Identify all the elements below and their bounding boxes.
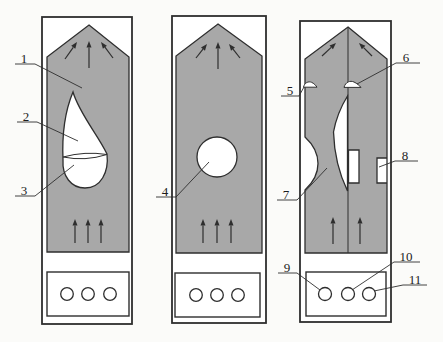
panel-right: [300, 21, 391, 322]
ref-label-6-text: 6: [403, 50, 410, 65]
ref-label-7-text: 7: [283, 187, 290, 202]
ref-label-9-text: 9: [284, 260, 291, 275]
panel-middle-hole-1: [190, 289, 203, 302]
ref-label-4-text: 4: [162, 184, 169, 199]
panel-left-hole-1: [61, 288, 74, 301]
ref-label-3-text: 3: [21, 183, 28, 198]
ref-label-10-text: 10: [400, 249, 413, 264]
panel-middle-hole-2: [211, 289, 224, 302]
ref-label-1-text: 1: [21, 51, 28, 66]
panel-right-hole-3: [363, 288, 376, 301]
ref-label-8-text: 8: [402, 148, 409, 163]
panel-right-hole-1: [319, 288, 332, 301]
panel-left-hole-2: [82, 288, 95, 301]
ref-label-2-text: 2: [23, 109, 30, 124]
panel-middle-hole-3: [232, 289, 245, 302]
panel-middle: [172, 16, 266, 323]
panel-left: [42, 17, 132, 324]
patent-figure: 1234567891011: [0, 0, 443, 342]
ref-label-5-text: 5: [287, 83, 294, 98]
panel-left-hole-3: [104, 288, 117, 301]
diagram-page: 1234567891011: [0, 0, 443, 342]
ref-label-11-text: 11: [409, 272, 422, 287]
